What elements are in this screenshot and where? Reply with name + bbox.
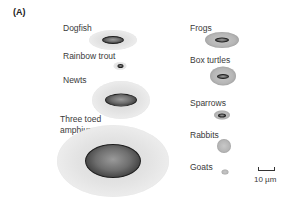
red-blood-cell [222, 170, 229, 175]
species-label-line: Box turtles [190, 55, 230, 66]
cell-nucleus [217, 74, 229, 79]
cell-nucleus [215, 38, 229, 43]
red-blood-cell [205, 32, 239, 48]
species-label-line: Rainbow trout [63, 51, 115, 62]
species-label-line: Newts [63, 75, 87, 86]
species-label: Sparrows [190, 98, 226, 109]
species-label: Box turtles [190, 55, 230, 66]
species-label-line: Dogfish [63, 23, 92, 34]
species-label-line: Frogs [190, 23, 212, 34]
species-label-line: Rabbits [190, 130, 219, 141]
species-label: Rainbow trout [63, 51, 115, 62]
red-blood-cell [210, 67, 236, 86]
cell-nucleus [102, 36, 124, 44]
species-label: Rabbits [190, 130, 219, 141]
cell-nucleus [85, 144, 141, 178]
species-label-line: Three toed [60, 114, 104, 125]
red-blood-cell [214, 111, 230, 120]
red-blood-cell [57, 125, 169, 197]
species-label: Goats [190, 162, 213, 173]
red-blood-cell [217, 139, 231, 153]
scale-bar-label: 10 µm [254, 175, 276, 184]
red-blood-cell [89, 30, 137, 50]
species-label: Newts [63, 75, 87, 86]
cell-nucleus [218, 113, 226, 117]
red-blood-cell [114, 62, 127, 70]
species-label: Frogs [190, 23, 212, 34]
species-label: Dogfish [63, 23, 92, 34]
species-label-line: Sparrows [190, 98, 226, 109]
scale-bar [258, 167, 275, 171]
species-label-line: Goats [190, 162, 213, 173]
cell-nucleus [105, 94, 137, 107]
cell-nucleus [117, 64, 123, 68]
panel-label: (A) [13, 7, 26, 17]
